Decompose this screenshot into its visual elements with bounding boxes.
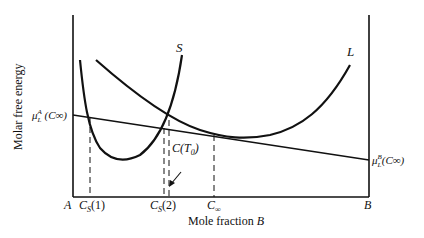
- y-axis-title: Molar free energy: [11, 64, 25, 150]
- mu-a-label: μLA (C∞): [31, 108, 67, 124]
- liquid-free-energy-curve: [96, 60, 350, 138]
- liquid-curve-label: L: [346, 44, 354, 59]
- common-tangent-line: [73, 115, 369, 160]
- ct0-annotation: C(T0): [172, 141, 199, 157]
- diagram-canvas: S L μLA (C∞) μLB(C∞) C(T0) A CS(1) CS(2)…: [0, 0, 424, 238]
- cs1-tick-label: CS(1): [79, 198, 105, 214]
- solid-free-energy-curve: [80, 55, 182, 160]
- free-energy-diagram: S L μLA (C∞) μLB(C∞) C(T0) A CS(1) CS(2)…: [0, 0, 424, 238]
- x-axis-title: Mole fraction B: [188, 214, 265, 228]
- b-endpoint-label: B: [364, 198, 372, 212]
- cs2-tick-label: CS(2): [150, 198, 176, 214]
- cinf-tick-label: C∞: [207, 198, 221, 214]
- solid-curve-label: S: [176, 40, 183, 55]
- mu-b-label: μLB(C∞): [371, 153, 405, 169]
- a-endpoint-label: A: [63, 198, 72, 212]
